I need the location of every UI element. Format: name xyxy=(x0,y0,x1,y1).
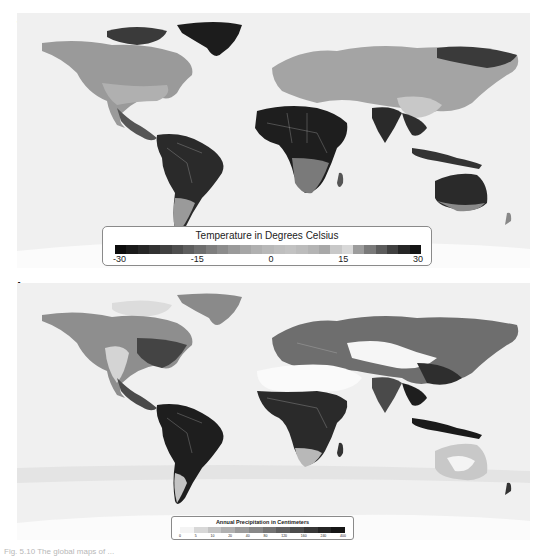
legend-tick: 40 xyxy=(246,534,250,538)
temperature-legend-ticks: -30-1501530 xyxy=(113,254,423,264)
ramp-swatch xyxy=(290,527,304,533)
legend-tick: 10 xyxy=(210,534,214,538)
legend-tick: 0 xyxy=(179,534,181,538)
ramp-swatch xyxy=(304,527,318,533)
precipitation-legend-ticks: 0510204080120160240400 xyxy=(179,534,346,538)
legend-tick: -30 xyxy=(113,254,126,264)
ramp-swatch xyxy=(172,245,183,254)
ramp-swatch xyxy=(126,245,137,254)
legend-tick: 400 xyxy=(340,534,346,538)
ramp-swatch xyxy=(410,245,421,254)
ramp-swatch xyxy=(262,245,273,254)
ramp-swatch xyxy=(387,245,398,254)
ramp-swatch xyxy=(296,245,307,254)
ramp-swatch xyxy=(221,527,235,533)
temperature-legend-title: Temperature in Degrees Celsius xyxy=(103,230,431,241)
ramp-swatch xyxy=(331,527,345,533)
ramp-swatch xyxy=(138,245,149,254)
ramp-swatch xyxy=(274,245,285,254)
ramp-swatch xyxy=(249,527,263,533)
ramp-swatch xyxy=(251,245,262,254)
ramp-swatch xyxy=(318,527,332,533)
ramp-swatch xyxy=(228,245,239,254)
ramp-swatch xyxy=(263,527,277,533)
precipitation-legend-title: Annual Precipitation in Centimeters xyxy=(172,519,353,525)
ramp-swatch xyxy=(319,245,330,254)
ramp-swatch xyxy=(330,245,341,254)
ramp-swatch xyxy=(194,245,205,254)
precipitation-legend: Annual Precipitation in Centimeters 0510… xyxy=(171,516,354,540)
legend-tick: 80 xyxy=(264,534,268,538)
figure-caption: Fig. 5.10 The global maps of ... xyxy=(4,547,114,556)
ramp-swatch xyxy=(206,245,217,254)
ramp-swatch xyxy=(308,245,319,254)
ramp-swatch xyxy=(183,245,194,254)
legend-tick: 15 xyxy=(338,254,348,264)
legend-tick: 20 xyxy=(228,534,232,538)
ramp-swatch xyxy=(342,245,353,254)
legend-tick: -15 xyxy=(191,254,204,264)
legend-tick: 120 xyxy=(281,534,287,538)
temperature-color-ramp xyxy=(115,245,421,254)
ramp-swatch xyxy=(353,245,364,254)
legend-tick: 5 xyxy=(195,534,197,538)
temperature-legend: Temperature in Degrees Celsius -30-15015… xyxy=(102,226,432,266)
legend-tick: 30 xyxy=(413,254,423,264)
ramp-swatch xyxy=(180,527,194,533)
ramp-swatch xyxy=(115,245,126,254)
ramp-swatch xyxy=(160,245,171,254)
ramp-swatch xyxy=(149,245,160,254)
world-map-precipitation xyxy=(17,283,530,540)
legend-tick: 0 xyxy=(268,254,273,264)
ramp-swatch xyxy=(194,527,208,533)
ramp-swatch xyxy=(276,527,290,533)
ramp-swatch xyxy=(398,245,409,254)
ramp-swatch xyxy=(285,245,296,254)
precipitation-color-ramp xyxy=(180,527,345,533)
ramp-swatch xyxy=(364,245,375,254)
ramp-swatch xyxy=(240,245,251,254)
legend-tick: 160 xyxy=(301,534,307,538)
ramp-swatch xyxy=(217,245,228,254)
legend-tick: 240 xyxy=(320,534,326,538)
precipitation-map: Annual Precipitation in Centimeters 0510… xyxy=(17,283,530,540)
temperature-map: Temperature in Degrees Celsius -30-15015… xyxy=(17,13,530,268)
ramp-swatch xyxy=(235,527,249,533)
ramp-swatch xyxy=(376,245,387,254)
ramp-swatch xyxy=(208,527,222,533)
